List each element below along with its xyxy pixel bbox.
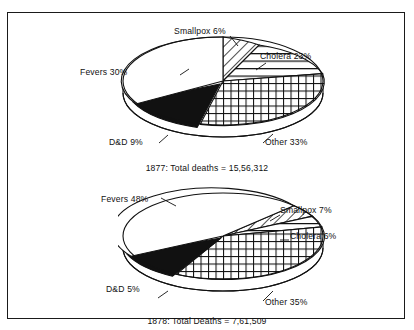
figure-frame: Smallpox 6% Cholera 23% Other 33% Fevers… — [7, 12, 405, 319]
label-1878-other: Other 35% — [265, 297, 307, 308]
pie-chart-1878: Fevers 48% Smallpox 7% Cholera 6% Other … — [8, 13, 404, 318]
leader-smallpox-1878 — [270, 215, 280, 221]
leader-dd-1878 — [158, 291, 168, 298]
caption-1878: 1878: Total Deaths = 7,61,509 — [8, 316, 406, 326]
label-1878-cholera: Cholera 6% — [290, 231, 336, 242]
pie-1878-leaders — [8, 173, 406, 330]
label-1878-fevers: Fevers 48% — [101, 194, 148, 205]
label-1878-dd: D&D 5% — [106, 284, 140, 295]
label-1878-smallpox: Smallpox 7% — [280, 205, 332, 216]
leader-fevers-1878 — [161, 198, 176, 206]
